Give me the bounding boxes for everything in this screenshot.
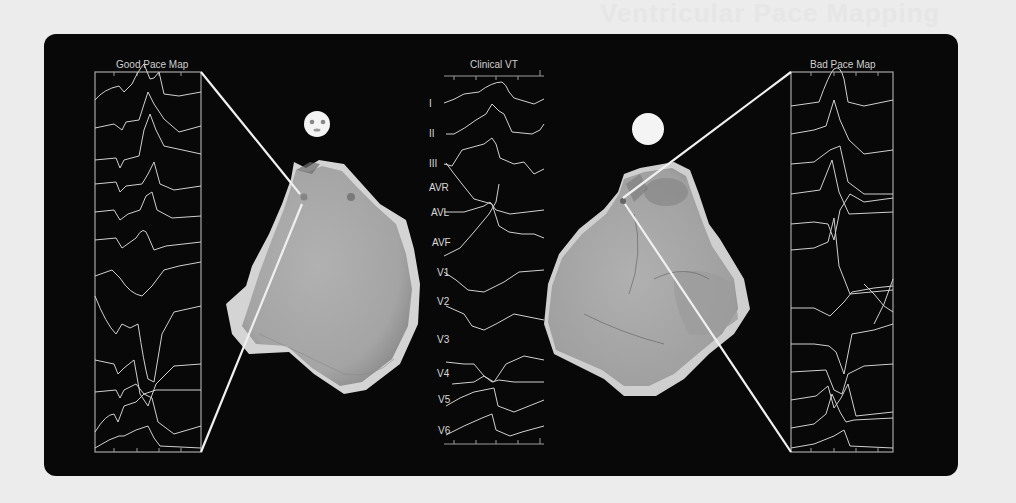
faint-header-title: Ventricular Pace Mapping xyxy=(600,0,940,29)
lead-label: V5 xyxy=(438,394,450,405)
lead-label: AVF xyxy=(432,237,451,248)
clinical-vt-ecg xyxy=(444,70,544,444)
lead-label: II xyxy=(429,128,435,139)
lead-label: I xyxy=(429,98,432,109)
good-pace-map-title: Good Pace Map xyxy=(116,59,188,70)
heart-model-right xyxy=(544,162,750,396)
heart-model-left xyxy=(226,160,420,394)
figure-panel: Good Pace Map Clinical VT Bad Pace Map I… xyxy=(44,34,958,476)
blank-face-icon xyxy=(632,113,664,145)
lead-label: V6 xyxy=(438,425,450,436)
bad-pace-map-frame xyxy=(791,68,893,452)
good-pace-map-frame xyxy=(95,64,201,452)
lead-label: V1 xyxy=(437,267,449,278)
lead-label: AVR xyxy=(429,182,449,193)
figure-graphics xyxy=(44,34,958,476)
smiley-face-icon xyxy=(304,111,330,137)
lead-label: V4 xyxy=(437,368,449,379)
clinical-vt-title: Clinical VT xyxy=(470,59,518,70)
lead-label: III xyxy=(429,158,437,169)
bad-pace-map-title: Bad Pace Map xyxy=(810,59,876,70)
lead-label: AVL xyxy=(431,207,449,218)
lead-label: V3 xyxy=(437,334,449,345)
lead-label: V2 xyxy=(437,296,449,307)
